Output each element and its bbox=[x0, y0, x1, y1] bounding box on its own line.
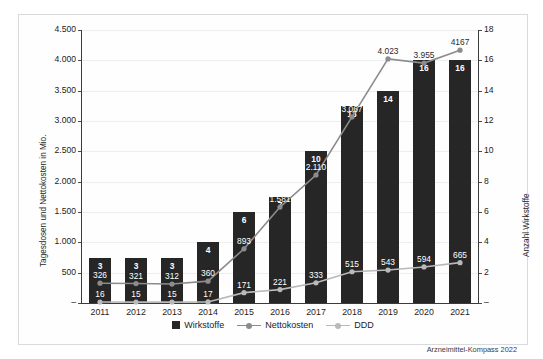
line-marker bbox=[205, 299, 210, 304]
x-axis-tick-label: 2014 bbox=[190, 307, 226, 317]
y-axis-left-tick-mark bbox=[78, 60, 81, 61]
x-axis-tick-label: 2020 bbox=[406, 307, 442, 317]
line-marker bbox=[313, 172, 318, 177]
legend-item[interactable]: Nettokosten bbox=[237, 320, 313, 330]
y-axis-right-tick-mark bbox=[479, 30, 482, 31]
line-marker bbox=[241, 246, 246, 251]
line-marker bbox=[457, 48, 462, 53]
line-marker bbox=[97, 299, 102, 304]
line-marker bbox=[169, 299, 174, 304]
y-axis-left-tick-mark bbox=[78, 30, 81, 31]
y-axis-left-tick-mark bbox=[78, 303, 81, 304]
y-axis-left-tick-label: 3.000 bbox=[30, 115, 76, 125]
x-axis-tick-label: 2012 bbox=[118, 307, 154, 317]
line-marker bbox=[97, 281, 102, 286]
x-axis-tick-label: 2016 bbox=[262, 307, 298, 317]
line-marker bbox=[421, 264, 426, 269]
legend-label: DDD bbox=[354, 320, 374, 330]
line-marker bbox=[349, 269, 354, 274]
x-axis-tick-label: 2017 bbox=[298, 307, 334, 317]
line-marker bbox=[349, 114, 354, 119]
y-axis-left-tick-label: 4.000 bbox=[30, 54, 76, 64]
y-axis-left-tick-label: – bbox=[30, 297, 76, 307]
y-axis-left-tick-label: 3.500 bbox=[30, 85, 76, 95]
y-axis-right-tick-label: 18 bbox=[484, 24, 514, 34]
point-value-label: 333 bbox=[290, 270, 342, 280]
plot-area: –5001.0001.5002.0002.5003.0003.5004.0004… bbox=[82, 30, 478, 303]
y-axis-left-tick-label: 2.000 bbox=[30, 176, 76, 186]
y-axis-right-tick-label: 12 bbox=[484, 115, 514, 125]
point-value-label: 2.110 bbox=[290, 162, 342, 172]
chart-figure: Tagesdosen und Nettokosten in Mio. Anzah… bbox=[18, 14, 528, 345]
legend-label: Wirkstoffe bbox=[184, 320, 224, 330]
y-axis-right-tick-mark bbox=[479, 242, 482, 243]
point-value-label: 4167 bbox=[434, 37, 486, 47]
point-value-label: 360 bbox=[182, 268, 234, 278]
y-axis-right-tick-label: – bbox=[484, 297, 514, 307]
y-axis-left-tick-mark bbox=[78, 91, 81, 92]
y-axis-right-tick-mark bbox=[479, 151, 482, 152]
chart-legend: WirkstoffeNettokostenDDD bbox=[19, 320, 527, 330]
point-value-label: 1.581 bbox=[254, 194, 306, 204]
legend-line-icon bbox=[237, 321, 261, 329]
legend-item[interactable]: DDD bbox=[326, 320, 374, 330]
legend-item[interactable]: Wirkstoffe bbox=[172, 320, 224, 330]
legend-line-icon bbox=[326, 321, 350, 329]
point-value-label: 3.067 bbox=[326, 104, 378, 114]
x-axis-tick-label: 2021 bbox=[442, 307, 478, 317]
line-marker bbox=[457, 260, 462, 265]
y-axis-right-tick-label: 6 bbox=[484, 206, 514, 216]
y-axis-right-tick-label: 2 bbox=[484, 267, 514, 277]
point-value-label: 893 bbox=[218, 236, 270, 246]
y-axis-left-tick-mark bbox=[78, 151, 81, 152]
line-marker bbox=[277, 204, 282, 209]
line-marker bbox=[205, 279, 210, 284]
legend-square-icon bbox=[172, 321, 180, 329]
x-axis-tick-label: 2019 bbox=[370, 307, 406, 317]
line-marker bbox=[133, 281, 138, 286]
line-marker bbox=[133, 299, 138, 304]
y-axis-left-tick-mark bbox=[78, 182, 81, 183]
y-axis-right-tick-mark bbox=[479, 212, 482, 213]
y-axis-left-tick-label: 2.500 bbox=[30, 145, 76, 155]
y-axis-right-tick-mark bbox=[479, 182, 482, 183]
y-axis-right-tick-label: 14 bbox=[484, 85, 514, 95]
y-axis-right-tick-mark bbox=[479, 273, 482, 274]
y-axis-right-tick-mark bbox=[479, 121, 482, 122]
y-axis-left-tick-label: 1.500 bbox=[30, 206, 76, 216]
x-axis-tick-label: 2015 bbox=[226, 307, 262, 317]
line-marker bbox=[277, 287, 282, 292]
y-axis-right-tick-mark bbox=[479, 60, 482, 61]
x-axis-tick-label: 2018 bbox=[334, 307, 370, 317]
x-axis-tick-label: 2013 bbox=[154, 307, 190, 317]
point-value-label: 3.955 bbox=[398, 50, 450, 60]
y-axis-left-tick-mark bbox=[78, 242, 81, 243]
line-marker bbox=[169, 281, 174, 286]
line-marker bbox=[313, 280, 318, 285]
point-value-label: 17 bbox=[182, 289, 234, 299]
y-axis-left-tick-mark bbox=[78, 121, 81, 122]
line-marker bbox=[385, 56, 390, 61]
y-axis-right-tick-mark bbox=[479, 303, 482, 304]
line-nettokosten bbox=[100, 50, 460, 284]
y-axis-left-tick-mark bbox=[78, 212, 81, 213]
y-axis-right-tick-label: 16 bbox=[484, 54, 514, 64]
y-axis-right-tick-label: 8 bbox=[484, 176, 514, 186]
legend-label: Nettokosten bbox=[265, 320, 313, 330]
point-value-label: 665 bbox=[434, 250, 486, 260]
y-axis-right-tick-label: 4 bbox=[484, 236, 514, 246]
y-axis-left-tick-label: 500 bbox=[30, 267, 76, 277]
line-marker bbox=[385, 267, 390, 272]
y-axis-left-tick-label: 1.000 bbox=[30, 236, 76, 246]
line-marker bbox=[421, 60, 426, 65]
line-marker bbox=[241, 290, 246, 295]
y-axis-right-title: Anzahl Wirkstoffe bbox=[522, 193, 531, 257]
y-axis-right-tick-mark bbox=[479, 91, 482, 92]
chart-credit: Arzneimittel-Kompass 2022 bbox=[427, 345, 517, 354]
y-axis-right-tick-label: 10 bbox=[484, 145, 514, 155]
x-axis-tick-label: 2011 bbox=[82, 307, 118, 317]
y-axis-left-tick-label: 4.500 bbox=[30, 24, 76, 34]
